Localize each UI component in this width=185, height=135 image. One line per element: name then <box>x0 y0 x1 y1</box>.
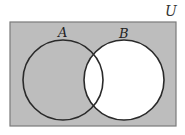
set-a-label: A <box>57 25 67 40</box>
venn-diagram: A B U <box>0 0 185 135</box>
venn-svg: A B U <box>0 0 185 135</box>
set-b-label: B <box>118 26 129 41</box>
universe-label: U <box>165 3 178 19</box>
